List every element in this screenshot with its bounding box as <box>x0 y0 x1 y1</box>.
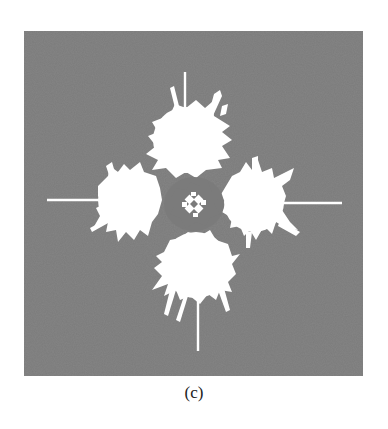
panel-caption: (c) <box>0 383 388 403</box>
center-pattern <box>164 177 224 231</box>
diffraction-pattern-image <box>0 0 388 429</box>
figure-panel-c: (c) <box>0 0 388 429</box>
